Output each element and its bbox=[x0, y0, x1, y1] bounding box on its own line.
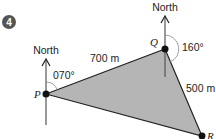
north-label-q: North bbox=[152, 1, 178, 13]
triangle-pqr bbox=[46, 49, 202, 136]
question-number: 4 bbox=[6, 17, 12, 28]
north-label-p: North bbox=[33, 44, 59, 56]
distance-pq: 700 m bbox=[90, 52, 119, 64]
bearing-p: 070° bbox=[53, 69, 75, 81]
angle-arc-p bbox=[46, 82, 57, 90]
bearing-diagram: 4 North North P Q R 070° 160° 700 m 500 … bbox=[0, 0, 216, 139]
label-p: P bbox=[33, 88, 41, 100]
bearing-q: 160° bbox=[182, 41, 204, 53]
point-q bbox=[162, 46, 169, 53]
distance-qr: 500 m bbox=[186, 82, 215, 94]
question-badge: 4 bbox=[2, 15, 16, 29]
point-p bbox=[43, 91, 50, 98]
label-r: R bbox=[206, 130, 214, 139]
label-q: Q bbox=[150, 36, 158, 48]
